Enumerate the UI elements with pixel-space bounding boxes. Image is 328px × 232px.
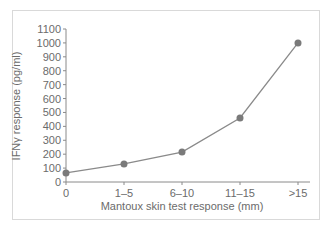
y-axis-title: IFNγ response (pg/ml) — [10, 52, 22, 161]
x-tick-label: 11–15 — [225, 187, 255, 199]
x-tick-label: 0 — [63, 187, 69, 199]
y-tick-label: 200 — [43, 148, 61, 160]
y-tick-label: 600 — [43, 93, 61, 105]
y-axis: 010020030040050060070080090010001100 — [37, 23, 66, 188]
y-tick-label: 500 — [43, 106, 61, 118]
y-tick-label: 0 — [55, 176, 61, 188]
y-tick-label: 400 — [43, 120, 61, 132]
x-tick-label: >15 — [289, 187, 308, 199]
data-point-marker — [237, 115, 244, 122]
y-tick-label: 1100 — [37, 23, 61, 35]
y-tick-label: 800 — [43, 65, 61, 77]
x-tick-label: 1–5 — [115, 187, 133, 199]
y-tick-label: 1000 — [37, 37, 61, 49]
y-tick-label: 100 — [43, 162, 61, 174]
data-point-marker — [295, 39, 302, 46]
line-chart: 010020030040050060070080090010001100 01–… — [0, 0, 328, 232]
x-axis-title: Mantoux skin test response (mm) — [101, 200, 264, 212]
y-tick-label: 900 — [43, 51, 61, 63]
data-point-marker — [179, 149, 186, 156]
y-tick-label: 300 — [43, 134, 61, 146]
data-series — [63, 39, 302, 176]
x-tick-label: 6–10 — [170, 187, 194, 199]
y-tick-label: 700 — [43, 79, 61, 91]
x-axis: 01–56–1011–15>15 — [63, 182, 310, 199]
data-point-marker — [121, 160, 128, 167]
data-point-marker — [63, 169, 70, 176]
